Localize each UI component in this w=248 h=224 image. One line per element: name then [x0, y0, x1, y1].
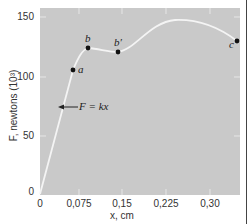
label-b: b — [85, 32, 91, 44]
y-axis-label: F, newtons (10³) — [8, 51, 19, 161]
x-tick-015: 0,15 — [102, 198, 142, 209]
x-tick-0075: 0,075 — [59, 198, 99, 209]
tick-marks — [40, 8, 240, 195]
y-tick-0: 0 — [6, 186, 34, 197]
point-b — [86, 46, 91, 51]
label-c: c — [229, 38, 234, 50]
y-tick-150: 150 — [6, 11, 34, 22]
point-a — [71, 68, 76, 73]
label-b-prime: b′ — [114, 36, 122, 48]
x-tick-0: 0 — [20, 198, 60, 209]
x-tick-0225: 0,225 — [146, 198, 186, 209]
arrow-icon — [58, 105, 78, 110]
x-axis-label: x, cm — [110, 210, 134, 221]
point-c — [235, 39, 240, 44]
point-b-prime — [116, 50, 121, 55]
chart-overlay — [0, 0, 248, 224]
label-a: a — [78, 63, 84, 75]
hooke-law-annotation: F = kx — [79, 100, 108, 112]
x-tick-030: 0,30 — [190, 198, 230, 209]
